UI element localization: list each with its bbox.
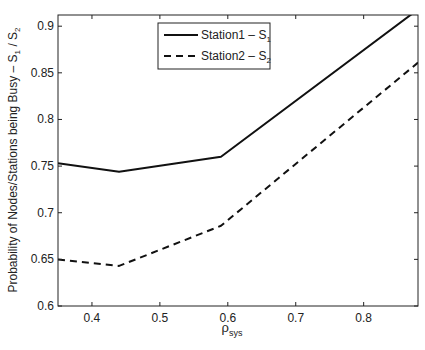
x-tick-label: 0.4: [84, 311, 101, 325]
y-tick-label: 0.7: [37, 206, 54, 220]
x-axis-label-sub: sys: [229, 328, 243, 338]
line-chart: 0.40.50.60.70.8 0.60.650.70.750.80.850.9…: [0, 0, 425, 350]
y-tick-label: 0.75: [31, 159, 55, 173]
legend-label-station2: Station2 – S2: [201, 49, 271, 65]
x-tick-label: 0.5: [152, 311, 169, 325]
y-tick-label: 0.65: [31, 252, 55, 266]
y-axis-label-part2: / S: [6, 32, 20, 50]
legend: Station1 – S1 Station2 – S2: [158, 23, 271, 69]
y-tick-label: 0.85: [31, 66, 55, 80]
y-axis-label-sub2: 2: [13, 27, 22, 32]
x-axis-label-main: ρ: [222, 320, 229, 335]
legend-label-station1: Station1 – S1: [201, 28, 271, 44]
y-tick-label: 0.6: [37, 299, 54, 313]
y-axis-label-part1: Probability of Nodes/Stations being Busy…: [6, 54, 20, 292]
y-axis-label: Probability of Nodes/Stations being Busy…: [6, 27, 22, 293]
x-tick-label: 0.8: [355, 311, 372, 325]
y-tick-label: 0.8: [37, 112, 54, 126]
y-tick-label: 0.9: [37, 19, 54, 33]
x-tick-label: 0.7: [287, 311, 304, 325]
